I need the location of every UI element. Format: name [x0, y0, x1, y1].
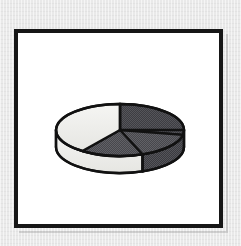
pie-chart-canvas [20, 35, 221, 226]
page-background [0, 0, 241, 246]
frame-inner-matte [18, 33, 219, 224]
picture-frame [14, 29, 223, 228]
pie-chart-svg [20, 35, 221, 226]
